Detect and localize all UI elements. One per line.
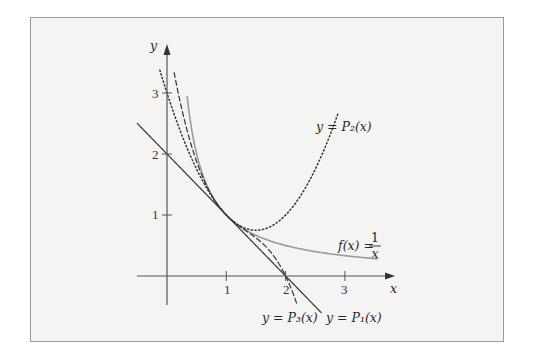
x-tick-label-3: 3 [341,282,348,297]
y-tick-label-2: 2 [152,147,159,162]
x-axis-arrow [385,273,395,280]
x-axis-label: x [390,281,397,296]
legend-label-p3: y = P₃(x) [261,310,318,325]
x-tick-label-2: 2 [283,282,290,297]
y-axis-label: y [149,38,158,53]
legend-label-f-lhs: f(x) = [337,238,374,253]
legend-label-p2: y = P₂(x) [315,119,372,134]
y-axis-arrow [164,44,171,55]
y-tick-label-1: 1 [152,207,159,222]
y-tick-label-3: 3 [152,86,159,101]
series-line-y-p2-x [160,70,338,230]
legend-label-f-num: 1 [371,230,379,245]
chart: y x 1 2 3 1 2 3 y = P₂(x) y = P₃(x) y = … [0,0,535,362]
legend-label-p1: y = P₁(x) [325,310,382,325]
series-line-y-p3-x [174,73,297,306]
legend-label-f-den: x [371,246,378,261]
x-tick-label-1: 1 [224,282,231,297]
